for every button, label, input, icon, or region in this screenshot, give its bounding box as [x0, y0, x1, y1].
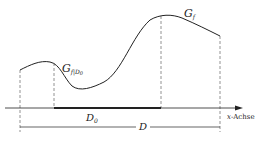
diagram-canvas: [0, 0, 265, 142]
label-domain-text: D: [139, 121, 147, 132]
label-graph-restricted-sub-text: f|D: [71, 68, 80, 75]
function-graph-curve: [20, 15, 220, 89]
label-graph-restricted-subsub: 0: [80, 70, 83, 76]
label-graph-f-main: G: [184, 7, 193, 20]
label-x-axis: x-Achse: [227, 114, 255, 121]
label-graph-f-sub: f: [193, 13, 195, 20]
label-graph-f: Gf: [184, 8, 195, 20]
x-axis-arrowhead-icon: [235, 106, 243, 111]
label-graph-restricted: Gf|D0: [62, 63, 83, 76]
label-subdomain: D0: [86, 113, 98, 124]
label-subdomain-sub: 0: [94, 117, 98, 124]
label-graph-restricted-sub: f|D0: [71, 68, 83, 75]
label-subdomain-main: D: [86, 112, 94, 123]
label-x-axis-rest: -Achse: [231, 113, 255, 121]
label-graph-restricted-main: G: [62, 62, 71, 75]
label-domain: D: [139, 122, 147, 132]
